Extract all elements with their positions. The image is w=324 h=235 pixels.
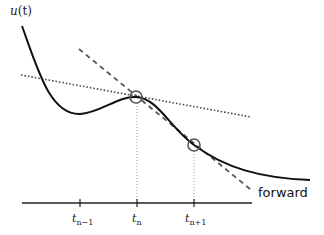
tick-label-tn1: tn+1 — [185, 212, 206, 227]
y-axis-label: u(t) — [10, 4, 32, 18]
tick-label-tn: tn — [132, 212, 142, 227]
forward-dashed-line — [79, 49, 250, 189]
tick-label-tn-1: tn−1 — [72, 212, 93, 227]
solution-curve — [22, 26, 310, 180]
forward-label: forward — [258, 185, 308, 200]
diagram-canvas: u(t) forward tn−1 tn tn+1 — [0, 0, 324, 235]
